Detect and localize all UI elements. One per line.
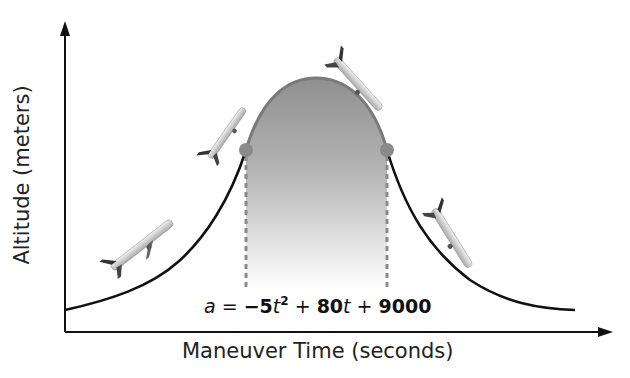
equation-equals: = — [216, 295, 244, 317]
equation-exponent: 2 — [280, 294, 288, 308]
airplane-climbing-icon — [99, 211, 180, 283]
airplane-descending-icon — [421, 197, 481, 273]
parabola-shaded-region — [246, 78, 387, 288]
parabola-end-dot — [380, 143, 394, 157]
x-axis-arrow-icon — [598, 327, 613, 337]
x-axis-label: Maneuver Time (seconds) — [182, 339, 453, 363]
y-axis-arrow-icon — [60, 21, 70, 36]
equation-plus2: + — [351, 295, 379, 317]
equation-coef1: 5 — [260, 295, 273, 317]
equation-constant: 9000 — [379, 295, 432, 317]
parabola-start-dot — [239, 143, 253, 157]
parabolic-flight-diagram: Altitude (meters) Maneuver Time (seconds… — [0, 0, 630, 378]
diagram-canvas — [0, 0, 630, 378]
equation-coef2: 80 — [317, 295, 343, 317]
parabola-equation: a = −5t2 + 80t + 9000 — [204, 294, 431, 317]
y-axis-label: Altitude (meters) — [10, 85, 34, 264]
equation-var2: t — [343, 295, 350, 317]
equation-lhs: a — [204, 295, 216, 317]
equation-plus1: + — [289, 295, 317, 317]
equation-minus: − — [244, 295, 260, 317]
descent-curve — [387, 150, 575, 310]
